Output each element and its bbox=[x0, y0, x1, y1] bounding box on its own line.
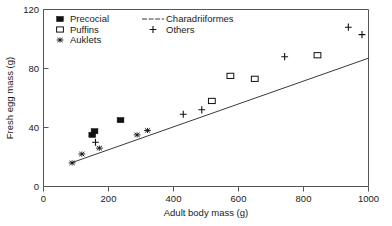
x-tick-label-1000: 1000 bbox=[358, 193, 379, 204]
scatter-chart-figure: 120 80 40 0 0 200 400 600 800 1000 Adult… bbox=[0, 0, 392, 226]
x-axis-title: Adult body mass (g) bbox=[164, 207, 248, 218]
data-point-others-2 bbox=[198, 106, 205, 113]
data-point-precocial-2 bbox=[117, 118, 124, 123]
data-point-puffins-1 bbox=[227, 73, 234, 78]
legend-label-others: Others bbox=[166, 24, 195, 35]
legend-marker-puffins bbox=[57, 27, 64, 32]
chart-legend: PrecocialPuffinsAukletsCharadriiformesOt… bbox=[57, 13, 234, 45]
legend-label-puffins: Puffins bbox=[70, 24, 99, 35]
legend-marker-auklets bbox=[57, 37, 64, 42]
data-point-others-5 bbox=[359, 31, 366, 38]
y-tick-group: 120 80 40 0 bbox=[23, 4, 48, 192]
data-points-layer bbox=[69, 24, 366, 166]
chart-canvas: 120 80 40 0 0 200 400 600 800 1000 Adult… bbox=[0, 0, 392, 226]
trendline-charadriiformes bbox=[71, 58, 368, 163]
series-others bbox=[92, 24, 365, 146]
data-point-others-1 bbox=[180, 111, 187, 118]
x-tick-group: 0 200 400 600 800 1000 bbox=[41, 187, 379, 205]
series-precocial bbox=[89, 118, 124, 138]
legend-marker-others bbox=[150, 26, 157, 33]
data-point-others-4 bbox=[345, 24, 352, 31]
x-tick-label-400: 400 bbox=[166, 193, 182, 204]
y-tick-label-40: 40 bbox=[28, 122, 39, 133]
x-tick-label-800: 800 bbox=[296, 193, 312, 204]
data-point-auklets-2 bbox=[96, 146, 103, 151]
y-tick-label-0: 0 bbox=[34, 181, 39, 192]
legend-label-charadriiformes: Charadriiformes bbox=[166, 13, 234, 24]
legend-label-precocial: Precocial bbox=[70, 13, 109, 24]
data-point-puffins-2 bbox=[251, 76, 258, 81]
legend-marker-precocial bbox=[57, 16, 64, 21]
x-tick-label-600: 600 bbox=[231, 193, 247, 204]
data-point-auklets-4 bbox=[144, 128, 151, 133]
x-tick-label-200: 200 bbox=[101, 193, 117, 204]
data-point-precocial-1 bbox=[91, 129, 98, 134]
series-puffins bbox=[208, 53, 320, 104]
data-point-auklets-1 bbox=[78, 151, 85, 156]
x-tick-label-0: 0 bbox=[41, 193, 46, 204]
data-point-auklets-0 bbox=[69, 160, 76, 165]
data-point-auklets-3 bbox=[134, 132, 141, 137]
data-point-others-0 bbox=[92, 139, 99, 146]
data-point-puffins-3 bbox=[314, 53, 321, 58]
data-point-others-3 bbox=[281, 53, 288, 60]
legend-label-auklets: Auklets bbox=[70, 34, 101, 45]
y-axis-title: Fresh egg mass (g) bbox=[4, 57, 15, 139]
y-tick-label-80: 80 bbox=[28, 63, 39, 74]
data-point-puffins-0 bbox=[208, 98, 215, 103]
y-tick-label-120: 120 bbox=[23, 4, 39, 15]
